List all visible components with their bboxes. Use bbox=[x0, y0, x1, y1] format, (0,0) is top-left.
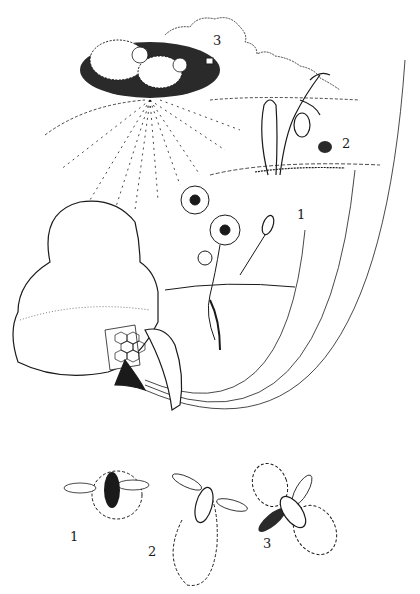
scene-label-1: 1 bbox=[297, 208, 305, 221]
dance-label-1: 1 bbox=[70, 530, 78, 543]
bellflower-plant bbox=[255, 73, 345, 175]
scene-label-3: 3 bbox=[213, 34, 221, 47]
dance-3-waggle bbox=[247, 459, 346, 563]
bee-foraging-illustration bbox=[0, 0, 420, 594]
dance-2-sickle bbox=[170, 471, 248, 586]
sun-rays bbox=[60, 100, 240, 210]
horizon-line bbox=[45, 98, 360, 136]
dance-1-round bbox=[64, 471, 149, 519]
bee-icon-near bbox=[260, 214, 276, 236]
bee-icon-distant bbox=[206, 58, 213, 64]
distant-shrub bbox=[80, 40, 220, 98]
scene-label-2: 2 bbox=[342, 137, 350, 150]
beehive-skep bbox=[13, 201, 182, 410]
bee-icon-mid bbox=[318, 141, 332, 153]
dance-label-3: 3 bbox=[263, 537, 271, 550]
dance-label-2: 2 bbox=[148, 545, 156, 558]
flight-path-arcs bbox=[145, 60, 405, 409]
daisy-plant bbox=[165, 186, 295, 350]
